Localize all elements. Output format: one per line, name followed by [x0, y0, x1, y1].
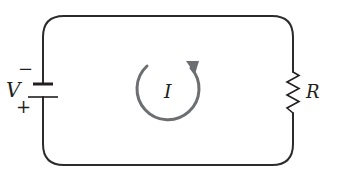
- battery-positive-sign: +: [16, 98, 31, 116]
- circuit-diagram: − V + I R: [0, 0, 345, 173]
- battery-negative-sign: −: [18, 60, 33, 78]
- current-label: I: [164, 82, 172, 101]
- battery-symbol: [28, 84, 58, 97]
- resistor-label: R: [306, 83, 320, 101]
- resistor-symbol: [287, 72, 299, 113]
